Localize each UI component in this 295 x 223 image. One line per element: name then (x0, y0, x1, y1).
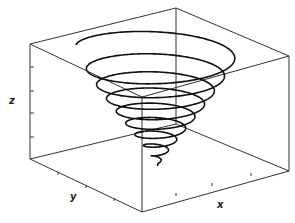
x-axis-label: x (217, 199, 223, 210)
plot-canvas (0, 0, 295, 223)
z-axis-label: z (9, 95, 15, 106)
box-edge (176, 124, 289, 171)
box-edge (142, 56, 289, 97)
box-edge (176, 8, 289, 56)
box-edge (142, 171, 289, 212)
z-axis-ticks (30, 67, 34, 137)
y-axis-label: y (70, 191, 77, 202)
conical-spiral-curve (76, 31, 235, 166)
bounding-box (30, 8, 289, 212)
box-edge (30, 8, 176, 44)
